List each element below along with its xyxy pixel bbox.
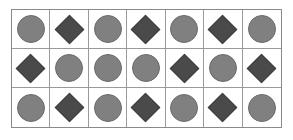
circle-shape — [170, 15, 198, 43]
grid-cell — [204, 49, 242, 88]
grid-cell — [12, 88, 50, 127]
diamond-shape — [54, 14, 84, 44]
grid-cell — [127, 10, 165, 49]
circle-shape — [17, 94, 45, 122]
circle-shape — [132, 54, 160, 82]
diamond-shape — [54, 93, 84, 123]
circle-shape — [94, 94, 122, 122]
grid-cell — [166, 88, 204, 127]
grid-cell — [89, 88, 127, 127]
grid-cell — [127, 49, 165, 88]
grid-cell — [204, 10, 242, 49]
diamond-shape — [208, 14, 238, 44]
circle-shape — [170, 94, 198, 122]
grid-cell — [127, 88, 165, 127]
grid-cell — [12, 10, 50, 49]
circle-shape — [209, 54, 237, 82]
circle-shape — [17, 15, 45, 43]
grid-cell — [166, 10, 204, 49]
grid-cell — [50, 49, 88, 88]
circle-shape — [94, 54, 122, 82]
grid-cell — [50, 10, 88, 49]
diamond-shape — [131, 14, 161, 44]
diamond-shape — [131, 93, 161, 123]
circle-shape — [94, 15, 122, 43]
grid-cell — [243, 10, 281, 49]
shape-grid — [11, 9, 282, 128]
circle-shape — [248, 15, 276, 43]
diamond-shape — [208, 93, 238, 123]
circle-shape — [248, 94, 276, 122]
grid-cell — [166, 49, 204, 88]
grid-cell — [89, 10, 127, 49]
grid-cell — [243, 49, 281, 88]
diamond-shape — [170, 53, 200, 83]
grid-cell — [89, 49, 127, 88]
circle-shape — [55, 54, 83, 82]
diamond-shape — [247, 53, 277, 83]
grid-cell — [50, 88, 88, 127]
grid-cell — [12, 49, 50, 88]
diamond-shape — [16, 53, 46, 83]
grid-cell — [243, 88, 281, 127]
grid-cell — [204, 88, 242, 127]
